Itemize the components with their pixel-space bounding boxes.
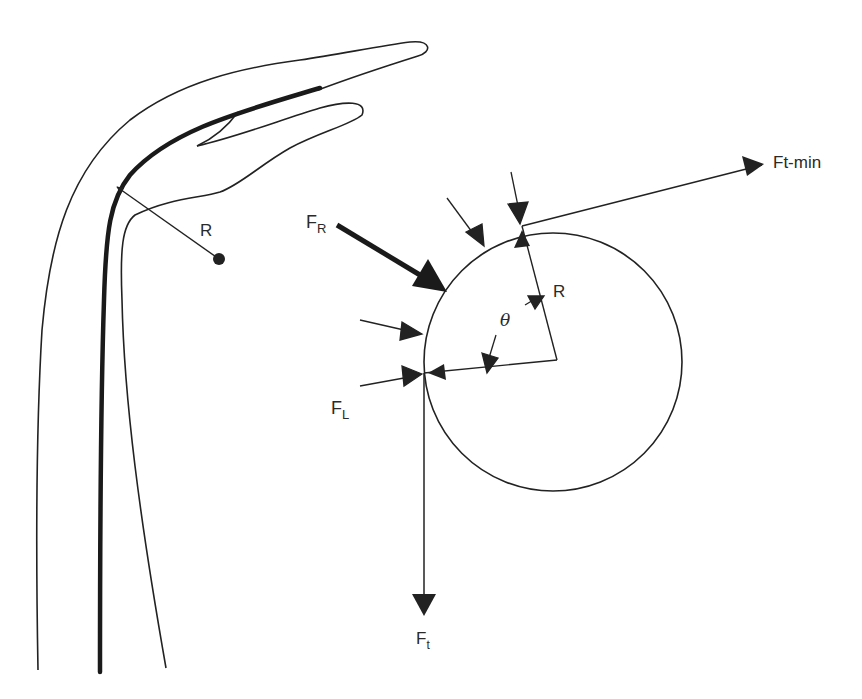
tendon bbox=[100, 88, 320, 672]
pulley-radius-label: R bbox=[553, 282, 565, 301]
theta-label: θ bbox=[500, 310, 510, 330]
fr-arrow bbox=[337, 225, 420, 275]
theta-arrows bbox=[482, 296, 544, 373]
finger-pivot-dot bbox=[213, 253, 225, 265]
ft-min-arrow bbox=[522, 165, 762, 226]
finger-inner-contour bbox=[121, 103, 363, 668]
pulley-circle bbox=[424, 233, 682, 491]
normal-force-arrows bbox=[360, 172, 528, 386]
fl-label: FL bbox=[331, 398, 349, 422]
fr-label: FR bbox=[306, 212, 326, 236]
finger-drawing bbox=[37, 42, 428, 670]
finger-radius-label: R bbox=[200, 221, 212, 240]
ft-label: Ft bbox=[416, 629, 430, 652]
ft-min-label: Ft-min bbox=[773, 153, 821, 172]
radius-arrowheads bbox=[428, 230, 530, 380]
ft-min-arrowhead bbox=[742, 156, 764, 176]
ft-arrowhead bbox=[412, 594, 436, 616]
diagram-canvas: R θ R Ft-min Ft bbox=[0, 0, 862, 699]
